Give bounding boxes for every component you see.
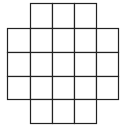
grid-cell	[31, 29, 53, 53]
grid-cell	[97, 29, 119, 53]
grid-cell	[75, 29, 97, 53]
grid-cell	[31, 100, 53, 124]
grid-cell	[53, 4, 75, 29]
cross-grid-diagram	[0, 0, 128, 128]
grid-cell	[53, 53, 75, 77]
grid-cell	[8, 77, 31, 100]
grid-cell	[75, 53, 97, 77]
grid-cell	[75, 77, 97, 100]
grid-cell	[53, 100, 75, 124]
grid-cell	[97, 77, 119, 100]
grid-cell	[53, 29, 75, 53]
grid-cell	[31, 77, 53, 100]
grid-cell	[31, 53, 53, 77]
grid-cell	[53, 77, 75, 100]
grid-cell	[75, 4, 97, 29]
grid-cell	[75, 100, 97, 124]
grid-cell	[8, 53, 31, 77]
grid-cell	[31, 4, 53, 29]
grid-cell	[8, 29, 31, 53]
grid-cell	[97, 53, 119, 77]
